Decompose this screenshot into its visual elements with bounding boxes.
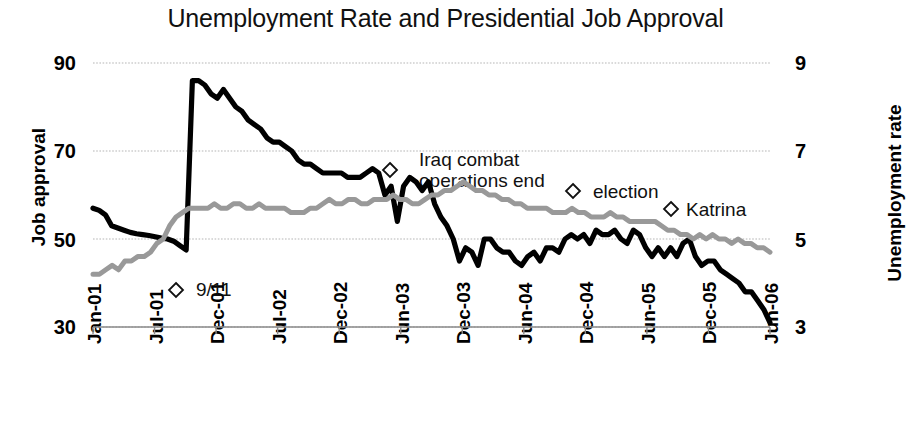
x-axis-line [93, 327, 770, 334]
series-line-unemployment-rate [93, 182, 770, 274]
diamond-marker [664, 202, 678, 216]
series-lines [93, 81, 770, 323]
diamond-marker [169, 283, 183, 297]
annotation-markers [169, 163, 678, 297]
diamond-marker [566, 184, 580, 198]
diamond-marker [383, 163, 397, 177]
series-line-job-approval [93, 81, 770, 323]
